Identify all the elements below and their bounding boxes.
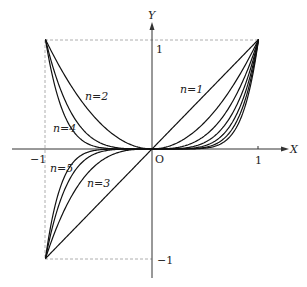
y-axis-label: Y [148,9,157,22]
x-axis-label: X [289,143,299,156]
y-tick-label-neg1: −1 [157,254,173,267]
x-tick-label-neg1: −1 [30,153,46,166]
curve-label-n5: n=5 [50,162,73,175]
x-tick-label-1: 1 [255,154,262,167]
x-axis-arrow-icon [281,147,289,152]
origin-label: O [155,153,164,166]
y-tick-label-1: 1 [156,43,163,56]
curve-label-n4: n=4 [53,122,76,135]
curve-label-n3: n=3 [87,177,110,190]
curve-label-n2: n=2 [85,90,108,103]
y-axis-arrow-icon [150,22,155,30]
power-functions-plot: X Y O −1 1 1 −1 n=1 n=2 n=4 n=5 n=3 [0,0,307,287]
curve-label-n1: n=1 [180,83,203,96]
